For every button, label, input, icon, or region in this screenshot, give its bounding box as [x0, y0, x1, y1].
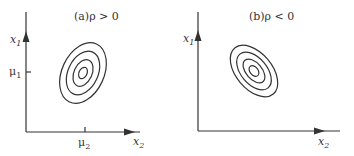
x-arrow-b	[314, 128, 325, 135]
x-tick-label-a: μ2	[78, 137, 90, 151]
y-label-a: x1	[10, 34, 21, 48]
y-arrow-b	[195, 30, 202, 41]
contour-diagram	[0, 0, 354, 156]
y-label-b: x1	[183, 33, 194, 47]
x-label-b: x2	[318, 136, 329, 150]
y-tick-label-a: μ1	[9, 66, 21, 80]
x-label-a: x2	[133, 136, 144, 150]
ellipses-positive	[50, 35, 115, 111]
title-a: (a)ρ > 0	[74, 11, 119, 22]
ellipses-negative	[221, 36, 287, 105]
title-b: (b)ρ < 0	[249, 11, 294, 22]
y-arrow-a	[23, 31, 30, 42]
